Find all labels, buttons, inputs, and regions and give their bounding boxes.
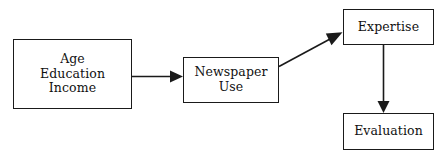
node-evaluation[interactable]: Evaluation — [343, 113, 434, 150]
arrowhead-right-icon — [170, 71, 183, 83]
node-newspaper-use-label: Newspaper Use — [194, 65, 267, 95]
node-predictors[interactable]: Age Education Income — [13, 39, 132, 109]
node-predictors-label: Age Education Income — [40, 52, 105, 96]
node-expertise[interactable]: Expertise — [343, 9, 434, 45]
edge-expertise-to-evaluation — [378, 45, 390, 113]
arrowhead-diagonal-icon — [326, 32, 343, 45]
node-newspaper-use[interactable]: Newspaper Use — [183, 57, 279, 103]
edge-newspaper-use-to-expertise — [279, 32, 343, 66]
node-expertise-label: Expertise — [358, 20, 419, 35]
edge-predictors-to-newspaper-use — [132, 71, 183, 83]
arrowhead-down-icon — [378, 101, 390, 113]
node-evaluation-label: Evaluation — [354, 124, 423, 139]
path-diagram: Age Education Income Newspaper Use Exper… — [0, 0, 446, 156]
